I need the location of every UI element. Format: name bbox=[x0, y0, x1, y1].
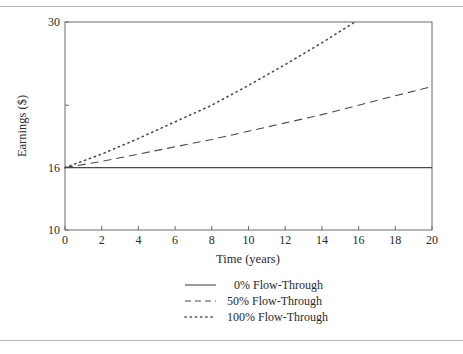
x-tick-label: 4 bbox=[135, 233, 141, 247]
x-tick-label: 18 bbox=[389, 233, 401, 247]
x-axis-title: Time (years) bbox=[216, 252, 280, 266]
x-tick-label: 8 bbox=[209, 233, 215, 247]
y-axis-title: Earnings ($) bbox=[15, 95, 29, 157]
x-tick-label: 16 bbox=[353, 233, 365, 247]
x-tick-label: 10 bbox=[243, 233, 255, 247]
x-tick-label: 2 bbox=[99, 233, 105, 247]
series-line-dashed bbox=[65, 87, 432, 168]
series-line-dotted bbox=[65, 22, 355, 168]
x-tick-label: 6 bbox=[172, 233, 178, 247]
x-tick-label: 0 bbox=[62, 233, 68, 247]
x-tick-label: 14 bbox=[316, 233, 328, 247]
legend-label: 50% Flow-Through bbox=[227, 294, 322, 308]
x-tick-label: 12 bbox=[279, 233, 291, 247]
legend-label: 0% Flow-Through bbox=[234, 278, 323, 292]
y-tick-label: 10 bbox=[48, 223, 60, 237]
x-tick-label: 20 bbox=[426, 233, 438, 247]
plot-frame bbox=[65, 22, 432, 230]
legend: 0% Flow-Through50% Flow-Through100% Flow… bbox=[185, 278, 328, 324]
legend-label: 100% Flow-Through bbox=[227, 310, 328, 324]
y-tick-label: 16 bbox=[48, 161, 60, 175]
chart: 02468101214161820101630 Time (years) Ear… bbox=[0, 0, 463, 354]
y-tick-label: 30 bbox=[48, 15, 60, 29]
